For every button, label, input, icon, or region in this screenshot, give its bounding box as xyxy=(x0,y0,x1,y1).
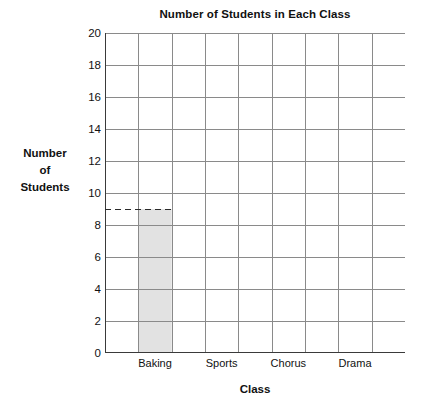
bar-chart: Number of Students in Each Class Number … xyxy=(0,0,430,409)
chart-title: Number of Students in Each Class xyxy=(105,8,405,20)
x-tick-label-baking: Baking xyxy=(138,357,172,369)
plot-grid xyxy=(105,33,405,353)
y-tick-label: 16 xyxy=(75,91,101,103)
y-tick-label: 4 xyxy=(75,283,101,295)
y-tick-label: 8 xyxy=(75,219,101,231)
y-axis-title-line-1: Number xyxy=(4,145,86,162)
y-tick-label: 10 xyxy=(75,187,101,199)
x-tick-label-drama: Drama xyxy=(338,357,371,369)
x-axis-title: Class xyxy=(105,383,405,395)
y-tick-label: 18 xyxy=(75,59,101,71)
y-axis-title-line-2: of xyxy=(4,162,86,179)
x-tick-label-sports: Sports xyxy=(206,357,238,369)
y-tick-label: 6 xyxy=(75,251,101,263)
y-tick-label: 14 xyxy=(75,123,101,135)
y-tick-label: 0 xyxy=(75,347,101,359)
x-tick-label-chorus: Chorus xyxy=(271,357,306,369)
y-tick-label: 12 xyxy=(75,155,101,167)
y-axis-title-line-3: Students xyxy=(4,179,86,196)
bar-baking xyxy=(138,209,171,353)
y-tick-label: 2 xyxy=(75,315,101,327)
plot-area: 02468101214161820BakingSportsChorusDrama xyxy=(105,33,405,353)
y-axis-title: Number of Students xyxy=(4,145,86,196)
y-tick-label: 20 xyxy=(75,27,101,39)
